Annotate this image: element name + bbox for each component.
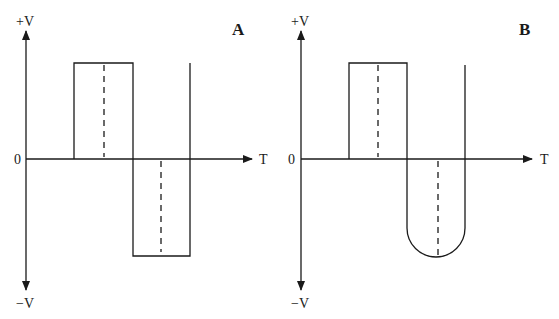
waveform-diagrams xyxy=(0,0,559,319)
diagram-b xyxy=(301,31,532,290)
diagram-a xyxy=(26,31,252,290)
y-axis-positive-label: +V xyxy=(291,15,309,29)
panel-label-a: A xyxy=(232,21,244,38)
y-axis-negative-label: −V xyxy=(291,297,309,311)
x-axis-label: T xyxy=(540,153,549,167)
panel-label-b: B xyxy=(519,21,530,38)
x-axis-label: T xyxy=(259,153,268,167)
y-axis-positive-label: +V xyxy=(16,15,34,29)
origin-label: 0 xyxy=(14,153,21,167)
negative-rounded-pulse xyxy=(407,159,465,257)
origin-label: 0 xyxy=(288,153,295,167)
y-axis-negative-label: −V xyxy=(16,297,34,311)
